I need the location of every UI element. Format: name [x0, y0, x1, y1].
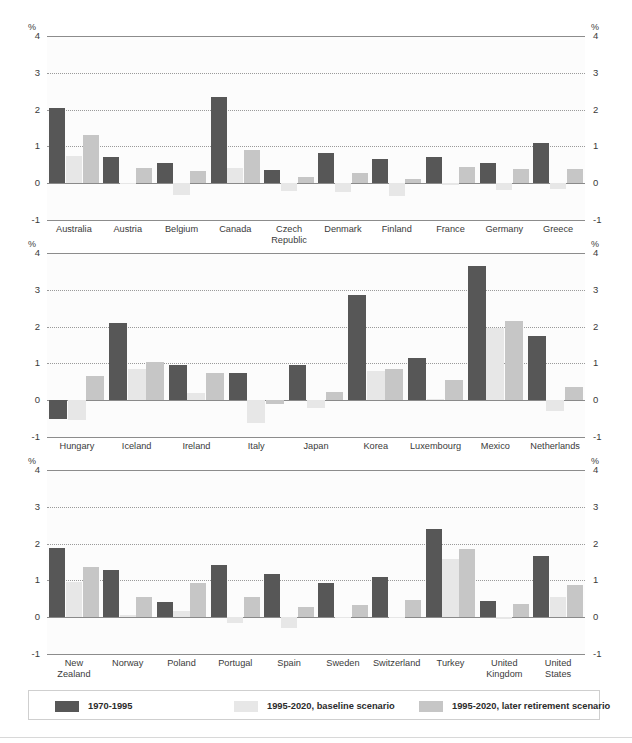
bar-group — [346, 253, 406, 437]
bar — [385, 369, 403, 400]
category-label: Switzerland — [370, 658, 424, 669]
bar — [264, 170, 280, 183]
legend-swatch — [419, 701, 443, 712]
category-label: Sweden — [316, 658, 370, 669]
axis-tick-label: 1 — [593, 576, 607, 584]
category-label: Canada — [208, 224, 262, 235]
category-label: Netherlands — [525, 441, 585, 452]
axis-tick-label: 3 — [593, 286, 607, 294]
category-label: UnitedKingdom — [477, 658, 531, 679]
bar-group — [107, 253, 167, 437]
bar — [103, 570, 119, 617]
bar-group — [167, 253, 227, 437]
category-label: Poland — [155, 658, 209, 669]
category-label: Iceland — [107, 441, 167, 452]
axis-tick-label: 1 — [593, 142, 607, 150]
bar — [120, 615, 136, 617]
bar — [68, 400, 86, 420]
bar — [128, 369, 146, 400]
legend-label: 1995-2020, later retirement scenario — [452, 701, 610, 711]
axis-tick-label: 4 — [26, 466, 40, 474]
bar-group — [477, 36, 531, 220]
legend-item[interactable]: 1970-1995 — [55, 691, 132, 721]
bar — [348, 295, 366, 400]
bar — [427, 399, 445, 400]
footer-rule — [0, 737, 632, 738]
bar-group — [101, 470, 155, 654]
axis-tick-label: -1 — [26, 433, 40, 441]
bars-layer — [47, 253, 585, 437]
bar — [83, 135, 99, 183]
bar — [389, 183, 405, 196]
bar — [264, 574, 280, 617]
bar — [513, 604, 529, 618]
bar — [244, 597, 260, 617]
bar — [550, 183, 566, 189]
axis-tick-label: 0 — [26, 179, 40, 187]
bar — [459, 167, 475, 184]
bar-group — [155, 470, 209, 654]
bar-group — [370, 470, 424, 654]
axis-tick-label: 0 — [26, 396, 40, 404]
bar — [49, 400, 67, 418]
bar — [146, 362, 164, 400]
axis-tick-label: 4 — [593, 249, 607, 257]
plot-area — [47, 470, 585, 654]
bar — [459, 549, 475, 617]
category-label: Belgium — [155, 224, 209, 235]
bar — [244, 150, 260, 183]
category-label: Mexico — [465, 441, 525, 452]
category-label: Australia — [47, 224, 101, 235]
bar — [281, 617, 297, 628]
bar — [445, 380, 463, 400]
bar — [389, 617, 405, 618]
bar-group — [226, 253, 286, 437]
bar-group — [316, 36, 370, 220]
legend-label: 1970-1995 — [88, 701, 132, 711]
category-label: Korea — [346, 441, 406, 452]
bar — [426, 157, 442, 183]
bar-group — [286, 253, 346, 437]
bar — [408, 358, 426, 400]
bar — [86, 376, 104, 400]
axis-tick-label: -1 — [26, 650, 40, 658]
bar — [298, 177, 314, 183]
bar-group — [316, 470, 370, 654]
axis-tick-label: 0 — [593, 179, 607, 187]
bar-group — [155, 36, 209, 220]
bar — [442, 183, 458, 184]
bar-group — [262, 470, 316, 654]
bar — [190, 583, 206, 617]
axis-tick-label: 1 — [26, 142, 40, 150]
bar — [426, 529, 442, 617]
axis-tick-label: 3 — [26, 503, 40, 511]
bar-group — [424, 36, 478, 220]
legend-item[interactable]: 1995-2020, baseline scenario — [234, 691, 395, 721]
bar — [318, 583, 334, 617]
bar — [442, 559, 458, 617]
category-label: UnitedStates — [531, 658, 585, 679]
bar — [281, 183, 297, 190]
bar — [513, 169, 529, 183]
category-label: Greece — [531, 224, 585, 235]
axis-tick-label: 2 — [26, 323, 40, 331]
category-label: New Zealand — [47, 658, 101, 679]
category-label: Italy — [226, 441, 286, 452]
axis-tick-label: -1 — [593, 216, 607, 224]
bar-group — [531, 36, 585, 220]
legend-item[interactable]: 1995-2020, later retirement scenario — [419, 691, 610, 721]
bar — [496, 617, 512, 619]
axis-tick-label: 2 — [26, 106, 40, 114]
axis-tick-label: 0 — [26, 613, 40, 621]
bar — [227, 168, 243, 183]
bar — [169, 365, 187, 401]
chart-legend: 1970-19951995-2020, baseline scenario199… — [28, 690, 600, 720]
bar — [567, 585, 583, 617]
category-label: Hungary — [47, 441, 107, 452]
bar — [211, 97, 227, 183]
bar — [157, 163, 173, 183]
bar — [187, 393, 205, 400]
bar — [49, 548, 65, 617]
legend-label: 1995-2020, baseline scenario — [267, 701, 395, 711]
axis-tick-label: 3 — [593, 503, 607, 511]
